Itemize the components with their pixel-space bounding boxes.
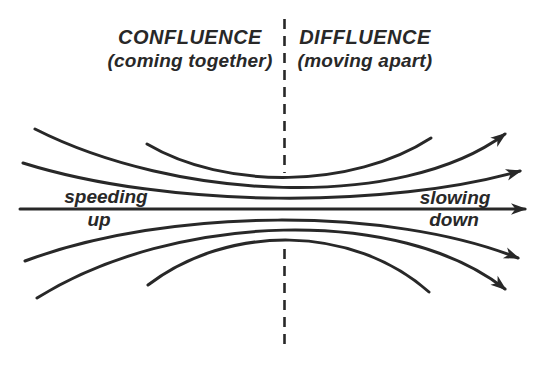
up-label: up: [53, 210, 145, 229]
streamline-top-outer: [35, 129, 505, 188]
confluence-header: CONFLUENCE (coming together): [98, 26, 282, 72]
streamline-bottom-inner-short: [148, 240, 429, 292]
diffluence-subtitle: (moving apart): [282, 49, 448, 72]
down-label: down: [408, 210, 500, 229]
confluence-subtitle: (coming together): [98, 49, 282, 72]
speeding-label: speeding: [60, 187, 152, 206]
diffluence-header: DIFFLUENCE (moving apart): [282, 26, 448, 72]
confluence-diffluence-diagram: CONFLUENCE (coming together) DIFFLUENCE …: [0, 0, 546, 365]
diffluence-title: DIFFLUENCE: [282, 26, 448, 49]
confluence-title: CONFLUENCE: [98, 26, 282, 49]
slowing-label: slowing: [409, 188, 501, 207]
streamline-top-inner-short: [147, 138, 431, 177]
